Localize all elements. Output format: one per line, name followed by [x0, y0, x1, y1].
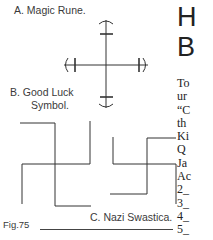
body-text: To ur “C th Ki Q Ja Ac 2_ 3_ 4_ 5_: [177, 77, 191, 237]
body-line: Ac: [177, 170, 191, 183]
body-line: 3_: [177, 197, 191, 210]
body-line: ur: [177, 90, 191, 103]
caption-good-luck-line1: B. Good Luck: [10, 87, 74, 98]
heading-line-1: H: [177, 3, 197, 31]
magic-rune-icon: [64, 20, 148, 108]
body-line: “C: [177, 104, 191, 117]
figure-label: Fig.75: [3, 219, 29, 230]
swastika-icon: [110, 137, 176, 204]
body-line: Q: [177, 143, 191, 156]
body-line: th: [177, 117, 191, 130]
body-line: Ja: [177, 157, 191, 170]
body-line: 5_: [177, 223, 191, 236]
caption-good-luck-line2: Symbol.: [31, 100, 69, 111]
caption-nazi-swastica: C. Nazi Swastica.: [90, 212, 172, 223]
heading-line-2: B: [177, 33, 195, 61]
caption-magic-rune: A. Magic Rune.: [14, 5, 86, 16]
body-line: 4_: [177, 210, 191, 223]
body-line: Ki: [177, 130, 191, 143]
body-line: 2_: [177, 183, 191, 196]
figure-rule: [40, 229, 173, 230]
body-line: To: [177, 77, 191, 90]
good-luck-symbol-icon: [20, 121, 91, 206]
